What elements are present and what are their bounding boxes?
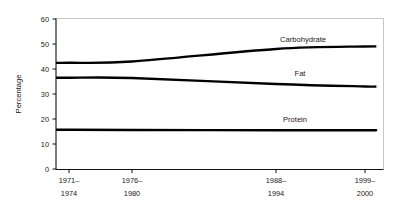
nutrient-percentage-line-chart: 60 50 40 30 20 10 0 Percentage 1971– 197…	[0, 0, 402, 212]
x-tick-label-1-line1: 1976–	[122, 176, 143, 185]
y-axis-tick-labels: 60 50 40 30 20 10 0	[41, 15, 49, 174]
y-tick-label-10: 10	[41, 140, 49, 149]
y-tick-label-60: 60	[41, 15, 49, 24]
y-tick-label-20: 20	[41, 115, 49, 124]
y-tick-label-0: 0	[45, 165, 49, 174]
x-tick-label-0-line1: 1971–	[59, 176, 80, 185]
x-tick-label-3-line2: 2000	[357, 189, 373, 198]
chart-figure: 60 50 40 30 20 10 0 Percentage 1971– 197…	[0, 0, 402, 212]
series-label-carbohydrate: Carbohydrate	[280, 35, 326, 44]
y-tick-label-40: 40	[41, 65, 49, 74]
series-line-carbohydrate	[56, 46, 376, 63]
x-tick-label-2-line1: 1988–	[266, 176, 287, 185]
x-axis-tick-labels: 1971– 1974 1976– 1980 1988– 1994 1999– 2…	[59, 176, 376, 198]
x-tick-label-1-line2: 1980	[124, 189, 140, 198]
y-tick-label-30: 30	[41, 90, 49, 99]
y-tick-label-50: 50	[41, 40, 49, 49]
data-series-group	[56, 46, 376, 130]
series-line-protein	[56, 130, 376, 131]
plot-frame-light	[56, 19, 384, 170]
series-label-fat: Fat	[295, 69, 307, 78]
x-tick-label-2-line2: 1994	[268, 189, 284, 198]
x-tick-label-3-line1: 1999–	[355, 176, 376, 185]
series-label-protein: Protein	[283, 115, 307, 124]
plot-axes	[56, 19, 384, 170]
series-line-fat	[56, 77, 376, 86]
x-tick-label-0-line2: 1974	[61, 189, 77, 198]
y-axis-title: Percentage	[14, 75, 23, 114]
